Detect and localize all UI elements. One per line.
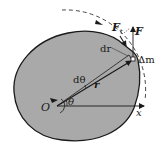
d-angle-label: dθ (73, 74, 85, 85)
x-axis-label: x (136, 107, 142, 118)
path-direction-arrow-icon (95, 20, 103, 25)
r-label: r (94, 79, 100, 90)
mass-label: Δm (138, 54, 155, 65)
mass-element (131, 57, 135, 61)
rigid-body (14, 31, 140, 141)
tangential-force-subscript: t (120, 28, 123, 36)
rotation-diagram: O x θ dθ dr r Δm F F t (0, 0, 158, 150)
ft-leader (124, 28, 130, 33)
origin-label: O (41, 101, 50, 114)
force-label: F (134, 25, 144, 38)
dr-label: dr (100, 43, 111, 54)
angle-label: θ (68, 96, 74, 107)
